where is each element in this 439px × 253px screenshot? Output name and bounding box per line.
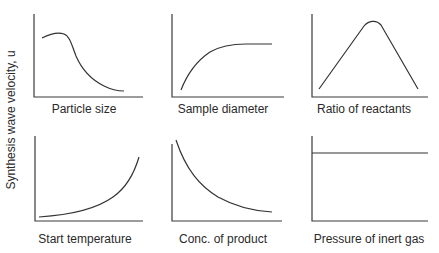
panel-3-curve <box>319 21 418 89</box>
x-label-pressure-of-inert-gas: Pressure of inert gas <box>314 232 425 246</box>
panel-ratio-of-reactants <box>312 14 428 97</box>
panel-5-curve <box>176 140 272 212</box>
panel-5-axes <box>172 144 282 221</box>
x-label-start-temperature: Start temperature <box>38 232 131 246</box>
panel-conc-of-product <box>172 140 282 221</box>
x-label-particle-size: Particle size <box>52 102 117 116</box>
panel-1-curve <box>42 33 124 91</box>
panel-4-curve <box>39 157 139 217</box>
panel-2-curve <box>181 44 272 90</box>
panel-3-axes <box>312 14 428 97</box>
panel-6-axes <box>312 136 428 221</box>
x-label-ratio-of-reactants: Ratio of reactants <box>317 102 411 116</box>
panel-particle-size <box>34 14 143 97</box>
panel-1-axes <box>34 14 143 97</box>
y-axis-label-text: Synthesis wave velocity, u <box>4 50 18 189</box>
x-label-conc-of-product: Conc. of product <box>179 232 267 246</box>
panel-sample-diameter <box>172 14 284 97</box>
panel-start-temperature <box>35 136 143 221</box>
panel-pressure-of-inert-gas <box>312 136 428 221</box>
panel-2-axes <box>172 14 284 97</box>
x-label-sample-diameter: Sample diameter <box>178 102 269 116</box>
figure-canvas <box>0 0 439 253</box>
